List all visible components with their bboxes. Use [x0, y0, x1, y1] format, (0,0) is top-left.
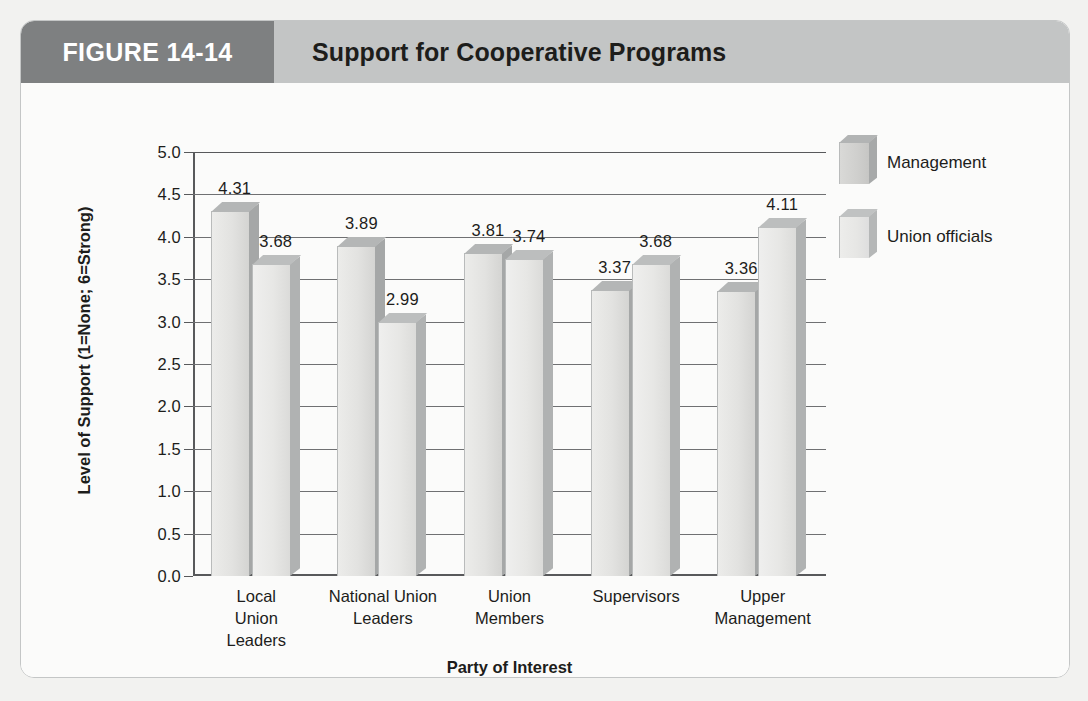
figure-number-label: FIGURE 14-14 [62, 38, 232, 67]
figure-title-band: Support for Cooperative Programs [274, 21, 1069, 83]
plot-area: 5.04.54.03.53.02.52.01.51.00.50.0 4.313.… [193, 152, 826, 576]
figure-title: Support for Cooperative Programs [312, 38, 726, 67]
y-tick-label: 3.0 [157, 312, 181, 331]
bars-layer: 4.313.683.892.993.813.743.373.683.364.11 [193, 152, 826, 576]
x-category-label: Supervisors [593, 586, 680, 608]
bar-value-label: 4.31 [218, 179, 251, 198]
y-tick-label: 4.5 [157, 185, 181, 204]
chart-legend: ManagementUnion officials [839, 141, 993, 289]
y-tick-label: 0.0 [157, 567, 181, 586]
bar-management [717, 291, 755, 576]
y-tick-label: 1.0 [157, 482, 181, 501]
x-category-label: LocalUnionLeaders [226, 586, 286, 651]
bar-value-label: 3.36 [725, 259, 758, 278]
y-tick-mark [184, 237, 193, 238]
bar-front-face [211, 211, 249, 576]
legend-item[interactable]: Union officials [839, 215, 993, 259]
legend-label: Union officials [887, 227, 993, 247]
bar-front-face [252, 264, 290, 576]
bar-management [464, 253, 502, 576]
management-swatch [839, 142, 869, 184]
bar-union [758, 227, 796, 576]
legend-item[interactable]: Management [839, 141, 993, 185]
swatch-front-face [839, 216, 869, 258]
bar-union [252, 264, 290, 576]
bar-front-face [464, 253, 502, 576]
figure-card: FIGURE 14-14 Support for Cooperative Pro… [20, 20, 1070, 678]
y-tick-mark [184, 364, 193, 365]
bar-side-face [796, 220, 806, 576]
bar-management [591, 290, 629, 576]
y-tick-label: 2.0 [157, 397, 181, 416]
swatch-side-face [869, 210, 877, 258]
bar-side-face [416, 315, 426, 576]
bar-front-face [378, 322, 416, 576]
bar-union [505, 259, 543, 576]
bar-side-face [290, 256, 300, 576]
bar-management [337, 246, 375, 576]
figure-header: FIGURE 14-14 Support for Cooperative Pro… [21, 21, 1069, 83]
y-tick-mark [184, 152, 193, 153]
y-axis-title: Level of Support (1=None; 6=Strong) [75, 141, 94, 561]
bar-front-face [717, 291, 755, 576]
chart-area: Level of Support (1=None; 6=Strong) 5.04… [21, 83, 1069, 678]
y-tick-mark [184, 322, 193, 323]
legend-label: Management [887, 153, 986, 173]
bar-front-face [758, 227, 796, 576]
bar-side-face [543, 251, 553, 576]
figure-page: FIGURE 14-14 Support for Cooperative Pro… [0, 0, 1088, 701]
bar-side-face [670, 256, 680, 576]
y-tick-mark [184, 576, 193, 577]
bar-union [378, 322, 416, 576]
bar-front-face [505, 259, 543, 576]
bar-value-label: 3.74 [513, 227, 546, 246]
y-tick-mark [184, 449, 193, 450]
y-tick-label: 2.5 [157, 355, 181, 374]
bar-front-face [337, 246, 375, 576]
y-tick-mark [184, 534, 193, 535]
x-category-label: UnionMembers [475, 586, 544, 630]
x-category-label: National UnionLeaders [329, 586, 437, 630]
union-officials-swatch [839, 216, 869, 258]
y-tick-label: 1.5 [157, 439, 181, 458]
bar-value-label: 3.68 [639, 232, 672, 251]
bar-union [632, 264, 670, 576]
x-category-label: UpperManagement [715, 586, 811, 630]
bar-value-label: 3.81 [472, 221, 505, 240]
y-tick-label: 3.5 [157, 270, 181, 289]
y-tick-mark [184, 194, 193, 195]
y-tick-mark [184, 491, 193, 492]
bar-management [211, 211, 249, 576]
swatch-front-face [839, 142, 869, 184]
swatch-side-face [869, 136, 877, 184]
y-tick-mark [184, 279, 193, 280]
bar-front-face [591, 290, 629, 576]
bar-value-label: 3.89 [345, 214, 378, 233]
y-tick-mark [184, 406, 193, 407]
bar-value-label: 2.99 [386, 290, 419, 309]
bar-value-label: 3.37 [598, 258, 631, 277]
y-tick-label: 0.5 [157, 524, 181, 543]
y-tick-label: 5.0 [157, 143, 181, 162]
figure-number-badge: FIGURE 14-14 [21, 21, 274, 83]
bar-front-face [632, 264, 670, 576]
bar-value-label: 3.68 [259, 232, 292, 251]
y-tick-label: 4.0 [157, 227, 181, 246]
bar-value-label: 4.11 [766, 195, 798, 214]
x-axis-title: Party of Interest [193, 658, 826, 677]
